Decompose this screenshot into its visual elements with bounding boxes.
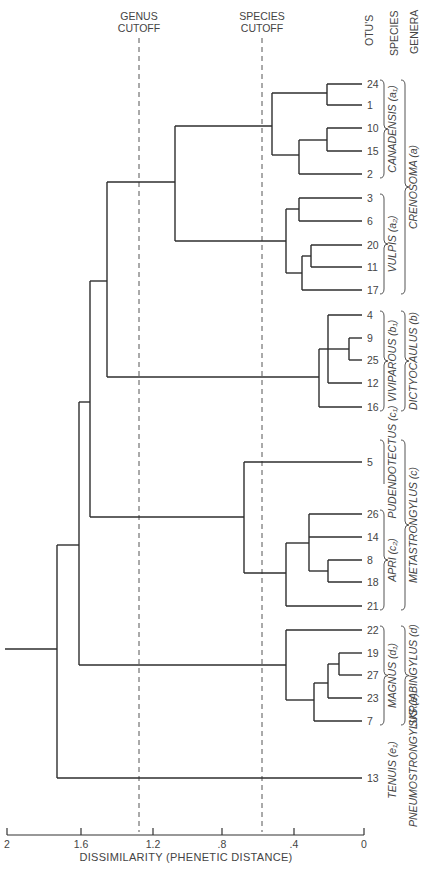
species-label: MAGNUS (d₁) [386, 643, 398, 708]
otu-label: 4 [367, 309, 373, 321]
species-label: APRI (c₂) [386, 538, 398, 583]
otu-label: 13 [367, 772, 379, 784]
genus-label: METASTRONGYLUS (c) [407, 467, 419, 583]
otu-label: 5 [367, 456, 373, 468]
tick-label: 2 [4, 838, 10, 850]
otu-label: 2 [367, 168, 373, 180]
tick-label: 1.2 [146, 838, 161, 850]
otu-label: 25 [367, 354, 379, 366]
species-label: VULPIS (a₂) [386, 215, 398, 272]
otu-label: 24 [367, 78, 379, 90]
genus-label: DICTYOCAULUS (b) [407, 312, 419, 410]
otu-label: 15 [367, 145, 379, 157]
otu-label: 16 [367, 401, 379, 413]
cutoff-labels: GENUS CUTOFF SPECIES CUTOFF [118, 10, 285, 34]
species-cutoff-label-line2: CUTOFF [241, 22, 283, 34]
species-cutoff-label-line1: SPECIES [239, 10, 285, 22]
species-label: VIVIPAROUS (b₁) [386, 320, 398, 402]
x-axis-ticks: 21.61.2.8.40 [4, 828, 367, 850]
tick-label: .4 [290, 838, 299, 850]
otu-label: 27 [367, 669, 379, 681]
otu-label: 23 [367, 692, 379, 704]
genus-label: PNEUMOSTRONGYLUS (e) [407, 693, 419, 827]
genus-brackets: CRENOSOMA (a)DICTYOCAULUS (b)METASTRONGY… [401, 80, 419, 827]
otu-label: 10 [367, 122, 379, 134]
otu-label: 18 [367, 576, 379, 588]
otu-label: 3 [367, 192, 373, 204]
species-bracket [380, 440, 384, 484]
tick-label: 1.6 [74, 838, 89, 850]
genus-cutoff-label-line1: GENUS [120, 10, 157, 22]
genus-cutoff-label-line2: CUTOFF [118, 22, 160, 34]
x-axis: 21.61.2.8.40 DISSIMILARITY (PHENETIC DIS… [4, 828, 367, 863]
otu-label: 22 [367, 624, 379, 636]
otu-label: 11 [367, 261, 378, 273]
otu-label: 9 [367, 332, 373, 344]
dendrogram-branches [5, 84, 362, 778]
species-label: PUDENDOTECTUS (c₁) [386, 406, 398, 519]
column-headers: OTU'S SPECIES GENERA [363, 10, 420, 56]
x-axis-title: DISSIMILARITY (PHENETIC DISTANCE) [79, 851, 292, 863]
otu-label: 6 [367, 215, 373, 227]
otu-label: 8 [367, 554, 373, 566]
header-species: SPECIES [388, 10, 400, 56]
otu-label: 21 [367, 600, 379, 612]
genus-label: CRENOSOMA (a) [407, 145, 419, 229]
species-label: TENUIS (e₁) [386, 741, 398, 799]
otu-label: 14 [367, 531, 379, 543]
dendrogram-figure: OTU'S SPECIES GENERA GENUS CUTOFF SPECIE… [0, 0, 436, 873]
otu-label: 20 [367, 239, 379, 251]
header-otus: OTU'S [363, 15, 375, 46]
header-genera: GENERA [408, 10, 420, 54]
otu-labels: 2411015236201117492512165261481821221927… [367, 78, 379, 784]
species-label: CANADENSIS (a₁) [386, 85, 398, 172]
otu-label: 12 [367, 377, 379, 389]
otu-label: 1 [367, 99, 373, 111]
otu-label: 7 [367, 715, 373, 727]
tick-label: 0 [361, 838, 367, 850]
species-brackets: CANADENSIS (a₁)VULPIS (a₂)VIVIPAROUS (b₁… [380, 80, 398, 799]
otu-label: 17 [367, 284, 379, 296]
otu-label: 26 [367, 508, 379, 520]
otu-label: 19 [367, 647, 379, 659]
tick-label: .8 [218, 838, 227, 850]
